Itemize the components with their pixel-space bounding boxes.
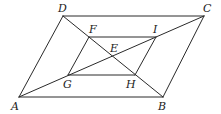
label-b: B	[157, 100, 166, 113]
diagonal-ac	[19, 16, 204, 97]
label-d: D	[57, 2, 67, 15]
label-f: F	[88, 23, 97, 36]
label-i: I	[152, 23, 158, 36]
segment-da	[19, 16, 63, 97]
label-a: A	[10, 100, 19, 113]
segment-ih	[135, 37, 156, 75]
label-c: C	[203, 2, 212, 15]
label-e: E	[109, 42, 118, 55]
segment-gf	[68, 37, 89, 75]
label-h: H	[125, 78, 136, 91]
parallelogram-diagram: D C A B F I E G H	[0, 0, 221, 114]
label-g: G	[63, 78, 72, 91]
segment-bc	[163, 16, 204, 97]
